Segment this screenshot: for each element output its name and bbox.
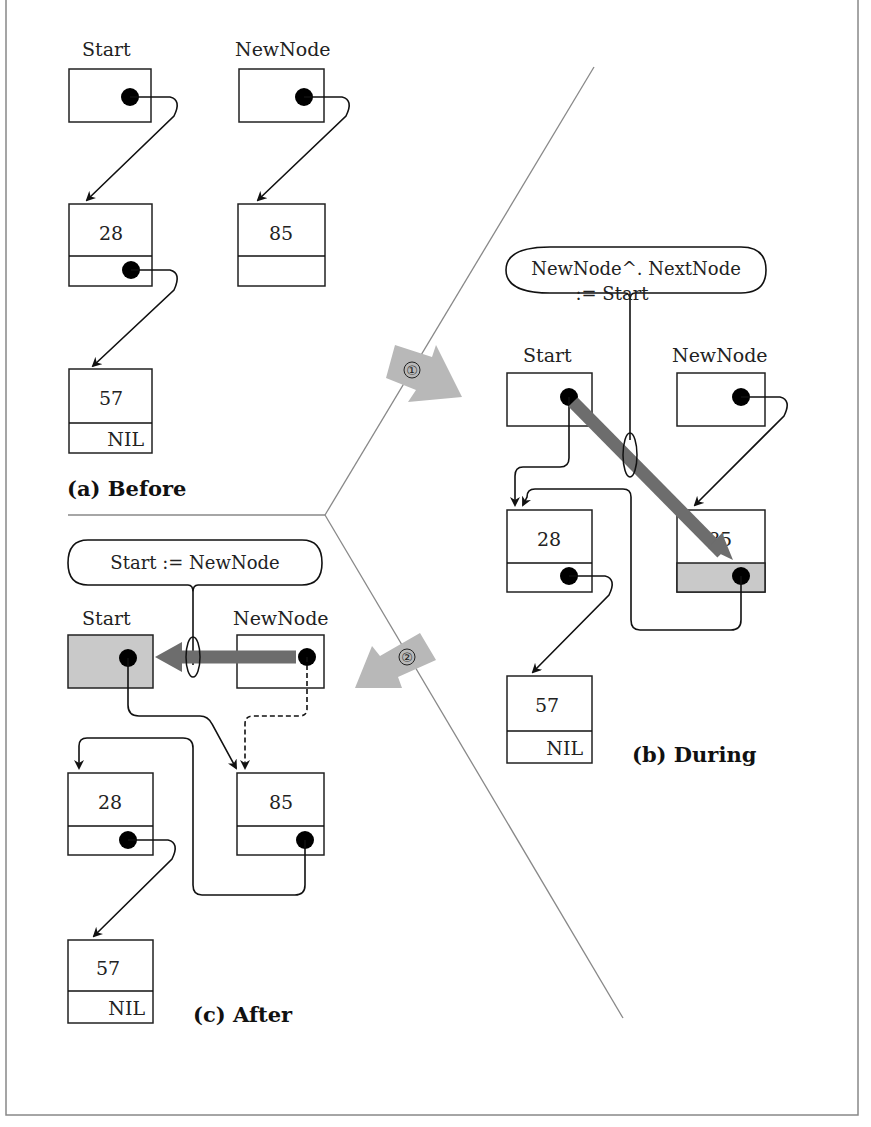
step-number: ② <box>401 650 413 665</box>
caption-during: (b) During <box>632 742 757 767</box>
node-value: 57 <box>96 957 120 979</box>
node-value: 28 <box>537 528 561 550</box>
statement-line-1: NewNode^. NextNode <box>531 258 741 279</box>
node-value: 28 <box>98 791 122 813</box>
node-28 <box>69 204 152 286</box>
pointer-box-start-highlight <box>68 635 153 688</box>
node-28 <box>507 510 592 592</box>
pointer-label-newnode: NewNode <box>233 607 329 629</box>
node-value: 57 <box>535 694 559 716</box>
caption-after: (c) After <box>193 1002 293 1027</box>
node-value: 85 <box>269 222 293 244</box>
pointer-box-newnode <box>677 373 765 426</box>
pointer-label-start: Start <box>82 38 131 60</box>
statement-text: Start := NewNode <box>110 552 279 573</box>
nil-label: NIL <box>107 428 144 450</box>
panel-during: NewNode^. NextNode := Start Start NewNod… <box>506 247 787 767</box>
caption-before: (a) Before <box>67 476 186 501</box>
step-2-arrow: ② <box>355 633 436 688</box>
pointer-label-start: Start <box>523 344 572 366</box>
node-value: 28 <box>99 222 123 244</box>
node-85-next-highlight <box>677 563 765 592</box>
pointer-label-start: Start <box>82 607 131 629</box>
node-value: 85 <box>269 791 293 813</box>
node-28 <box>68 773 153 855</box>
panel-before: Start NewNode 28 85 57 NIL (a) Before <box>67 38 349 501</box>
panel-after: Start := NewNode Start NewNode 28 85 <box>68 540 329 1027</box>
node-value: 57 <box>99 387 123 409</box>
node-85 <box>238 204 325 286</box>
pointer-label-newnode: NewNode <box>235 38 331 60</box>
linked-list-insertion-diagram: Start NewNode 28 85 57 NIL (a) Before ① <box>0 0 871 1127</box>
step-number: ① <box>406 363 418 378</box>
nil-label: NIL <box>108 997 145 1019</box>
statement-line-2: := Start <box>575 283 649 304</box>
pointer-label-newnode: NewNode <box>672 344 768 366</box>
nil-label: NIL <box>546 737 583 759</box>
